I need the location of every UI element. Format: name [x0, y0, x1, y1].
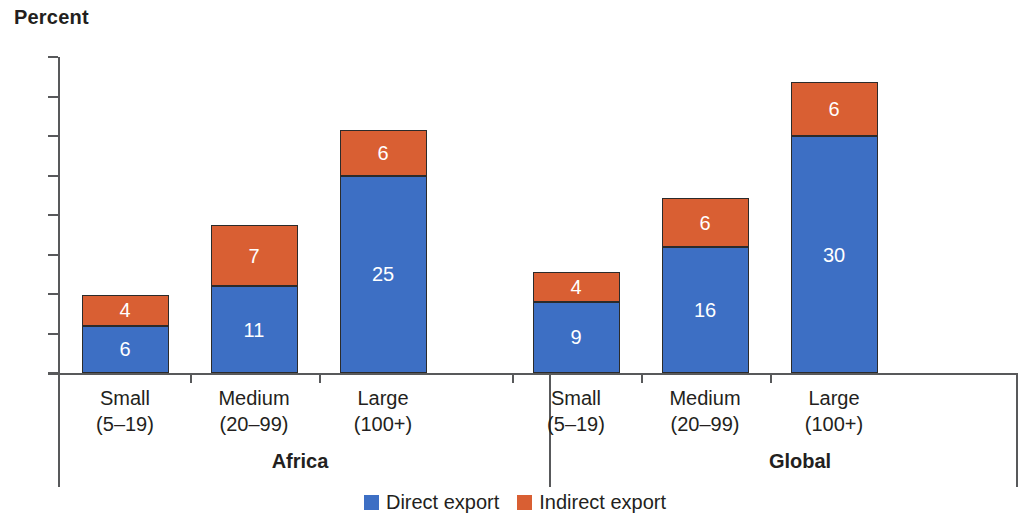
category-range: (100+)	[744, 412, 924, 438]
x-tick-mark	[770, 373, 772, 383]
y-tick-mark	[48, 293, 58, 295]
x-tick-mark	[512, 373, 514, 383]
y-axis-line	[58, 57, 60, 373]
panel-label-africa: Africa	[200, 450, 400, 473]
bar-africa-medium[interactable]: 117	[211, 57, 298, 373]
bar-segment-indirect[interactable]: 6	[662, 198, 749, 246]
category-range: (100+)	[293, 412, 473, 438]
y-axis-title: Percent	[14, 6, 89, 29]
bar-global-small[interactable]: 94	[533, 57, 620, 373]
chart-legend: Direct export Indirect export	[0, 492, 1030, 512]
bar-segment-indirect[interactable]: 4	[82, 295, 169, 326]
x-tick-mark	[641, 373, 643, 383]
legend-item-direct-export: Direct export	[364, 492, 499, 512]
bar-segment-indirect[interactable]: 6	[340, 130, 427, 175]
y-tick-mark	[48, 333, 58, 335]
plot-area: 4035302520151050 6411725694166306	[58, 57, 1018, 373]
y-tick-mark	[48, 56, 58, 58]
legend-swatch-icon-direct	[364, 495, 379, 510]
bar-segment-direct[interactable]: 6	[82, 326, 169, 373]
panel-label-global: Global	[700, 450, 900, 473]
category-label: Large(100+)	[293, 386, 473, 437]
bar-segment-indirect[interactable]: 4	[533, 272, 620, 302]
right-frame-line	[1016, 373, 1018, 487]
bar-africa-small[interactable]: 64	[82, 57, 169, 373]
legend-label-direct: Direct export	[386, 492, 499, 512]
category-label: Large(100+)	[744, 386, 924, 437]
y-tick-mark	[48, 254, 58, 256]
y-tick-mark	[48, 372, 58, 374]
bar-segment-direct[interactable]: 25	[340, 176, 427, 374]
y-tick-mark	[48, 96, 58, 98]
bar-global-medium[interactable]: 166	[662, 57, 749, 373]
bar-segment-direct[interactable]: 16	[662, 247, 749, 373]
bar-africa-large[interactable]: 256	[340, 57, 427, 373]
legend-swatch-icon-indirect	[517, 495, 532, 510]
y-tick-mark	[48, 175, 58, 177]
category-name: Large	[744, 386, 924, 412]
bar-segment-indirect[interactable]: 6	[791, 82, 878, 136]
bar-segment-direct[interactable]: 11	[211, 286, 298, 373]
x-axis-line	[48, 373, 1018, 375]
bar-segment-direct[interactable]: 9	[533, 302, 620, 373]
bar-segment-direct[interactable]: 30	[791, 136, 878, 373]
y-tick-mark	[48, 135, 58, 137]
y-tick-mark	[48, 214, 58, 216]
x-tick-mark	[190, 373, 192, 383]
legend-item-indirect-export: Indirect export	[517, 492, 666, 512]
legend-label-indirect: Indirect export	[539, 492, 666, 512]
stacked-bar-chart: Percent 4035302520151050 641172569416630…	[0, 0, 1030, 516]
bar-global-large[interactable]: 306	[791, 57, 878, 373]
category-name: Large	[293, 386, 473, 412]
x-tick-mark	[319, 373, 321, 383]
bar-segment-indirect[interactable]: 7	[211, 225, 298, 286]
